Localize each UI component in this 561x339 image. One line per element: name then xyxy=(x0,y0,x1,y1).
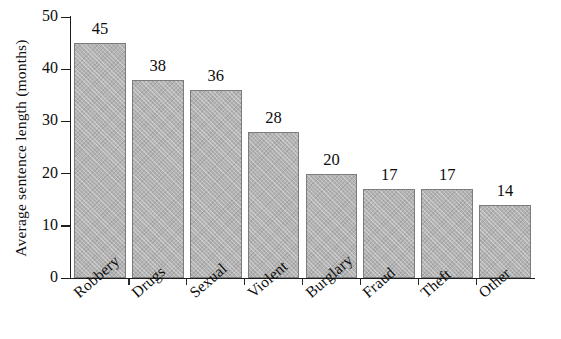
y-tick-label: 10 xyxy=(12,217,58,233)
bar xyxy=(74,43,126,278)
bar-value-label: 28 xyxy=(248,110,300,127)
y-tick-mark xyxy=(61,278,70,279)
y-tick-label-text: 0 xyxy=(14,269,58,285)
bar xyxy=(363,189,415,278)
bar xyxy=(190,90,242,278)
bar-value-label: 38 xyxy=(132,58,184,75)
y-tick-label: 30 xyxy=(12,112,58,128)
y-tick-mark xyxy=(61,121,70,122)
x-tick-mark xyxy=(302,279,303,285)
y-axis-line xyxy=(70,16,71,279)
x-tick-mark xyxy=(244,279,245,285)
y-axis-title: Average sentence length (months) xyxy=(12,8,34,288)
bar xyxy=(248,132,300,278)
y-tick-label: 40 xyxy=(12,60,58,76)
bar xyxy=(421,189,473,278)
x-tick-mark xyxy=(476,279,477,285)
y-tick-label-text: 40 xyxy=(14,60,58,76)
x-tick-mark xyxy=(418,279,419,285)
y-tick-label-text: 50 xyxy=(14,8,58,24)
y-tick-mark xyxy=(61,173,70,174)
bar-value-label: 20 xyxy=(306,152,358,169)
y-tick-label: 0 xyxy=(12,269,58,285)
bar-value-label: 17 xyxy=(421,167,473,184)
bar-value-label: 17 xyxy=(363,167,415,184)
x-tick-mark xyxy=(186,279,187,285)
bar xyxy=(132,80,184,278)
y-tick-label-text: 20 xyxy=(14,165,58,181)
x-tick-mark xyxy=(128,279,129,285)
bar-chart: Average sentence length (months) 0102030… xyxy=(0,0,561,339)
y-tick-label: 20 xyxy=(12,165,58,181)
y-tick-mark xyxy=(61,17,70,18)
y-tick-mark xyxy=(61,69,70,70)
bar-value-label: 45 xyxy=(74,21,126,38)
y-tick-label-text: 30 xyxy=(14,112,58,128)
x-tick-mark xyxy=(360,279,361,285)
bar-value-label: 36 xyxy=(190,68,242,85)
y-tick-label: 50 xyxy=(12,8,58,24)
y-tick-label-text: 10 xyxy=(14,217,58,233)
y-tick-mark xyxy=(61,225,70,226)
bar-value-label: 14 xyxy=(479,183,531,200)
